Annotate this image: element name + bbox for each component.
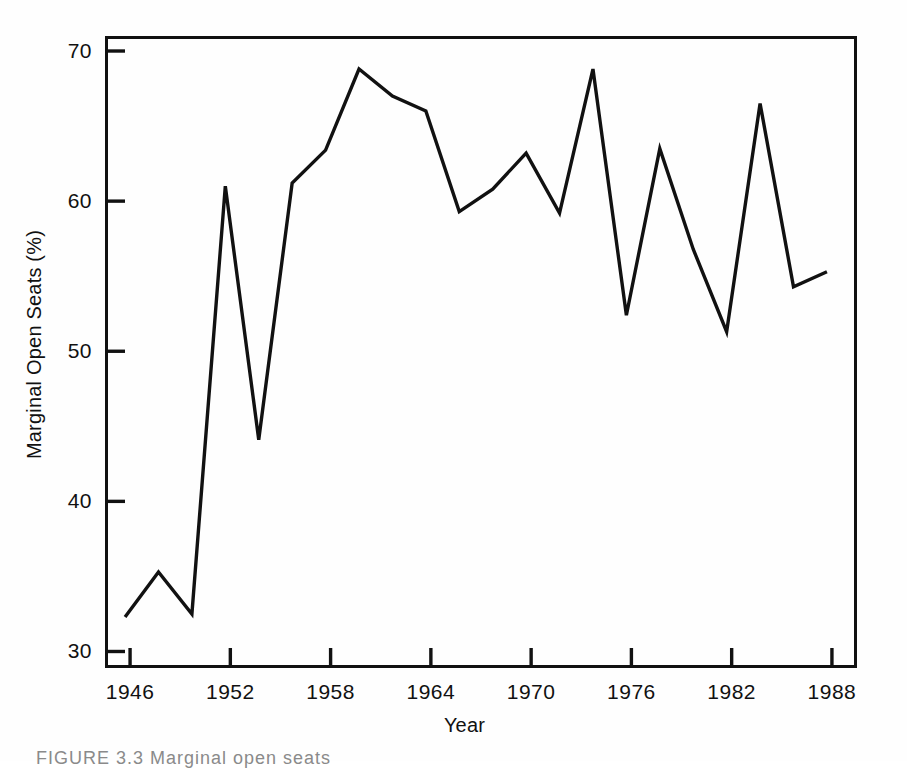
x-axis-tick-label: 1982 bbox=[677, 681, 787, 702]
plot-area bbox=[105, 36, 857, 668]
x-axis-tick-label: 1952 bbox=[175, 681, 285, 702]
x-axis-tick-labels: 19461952195819641970197619821988 bbox=[0, 681, 907, 711]
y-axis-tick-labels: 3040506070 bbox=[14, 0, 92, 761]
x-axis-title: Year bbox=[444, 714, 485, 737]
y-axis-tick-label: 30 bbox=[48, 640, 92, 661]
y-axis-tick-label: 60 bbox=[48, 190, 92, 211]
x-axis-tick-label: 1970 bbox=[476, 681, 586, 702]
x-axis-tick-label: 1958 bbox=[276, 681, 386, 702]
figure-caption: FIGURE 3.3 Marginal open seats bbox=[36, 748, 331, 769]
y-axis-tick-label: 50 bbox=[48, 340, 92, 361]
x-axis-title-container: Year bbox=[0, 714, 907, 737]
x-axis-tick-label: 1988 bbox=[777, 681, 887, 702]
x-axis-tick-label: 1946 bbox=[75, 681, 185, 702]
x-axis-tick-label: 1964 bbox=[376, 681, 486, 702]
y-axis-tick-label: 40 bbox=[48, 490, 92, 511]
y-axis-tick-label: 70 bbox=[48, 40, 92, 61]
x-axis-tick-label: 1976 bbox=[576, 681, 686, 702]
